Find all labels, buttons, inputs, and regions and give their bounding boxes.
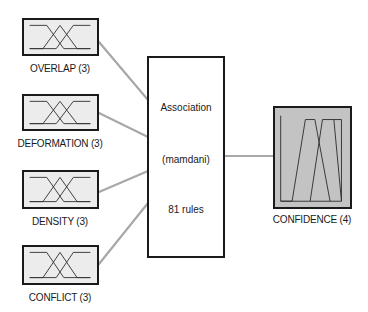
input-conflict-label: CONFLICT (3) bbox=[29, 292, 91, 303]
membership-functions-icon bbox=[24, 20, 97, 54]
membership-functions-icon bbox=[24, 172, 97, 207]
rule-block[interactable]: Association (mamdani) 81 rules bbox=[147, 56, 225, 258]
membership-functions-icon bbox=[24, 247, 97, 283]
input-deformation-label: DEFORMATION (3) bbox=[17, 138, 102, 149]
input-density-box[interactable] bbox=[22, 170, 99, 209]
connector-conflict bbox=[99, 203, 148, 264]
input-conflict-box[interactable] bbox=[22, 245, 99, 285]
output-confidence-box[interactable] bbox=[273, 106, 352, 209]
input-density-label: DENSITY (3) bbox=[32, 216, 88, 227]
rule-block-method: (mamdani) bbox=[149, 154, 223, 165]
output-membership-functions-icon bbox=[275, 108, 350, 207]
rule-block-title: Association bbox=[149, 102, 223, 113]
connector-density bbox=[99, 171, 148, 192]
fis-diagram: OVERLAP (3) DEFORMATION (3) DENSITY (3) bbox=[0, 0, 368, 312]
input-overlap-box[interactable] bbox=[22, 18, 99, 56]
input-overlap-label: OVERLAP (3) bbox=[30, 63, 90, 74]
connector-deformation bbox=[99, 113, 148, 137]
rule-block-rule-count: 81 rules bbox=[149, 204, 223, 215]
input-deformation-box[interactable] bbox=[22, 94, 99, 131]
membership-functions-icon bbox=[24, 96, 97, 129]
connector-overlap bbox=[99, 42, 148, 100]
output-confidence-label: CONFIDENCE (4) bbox=[273, 214, 351, 225]
